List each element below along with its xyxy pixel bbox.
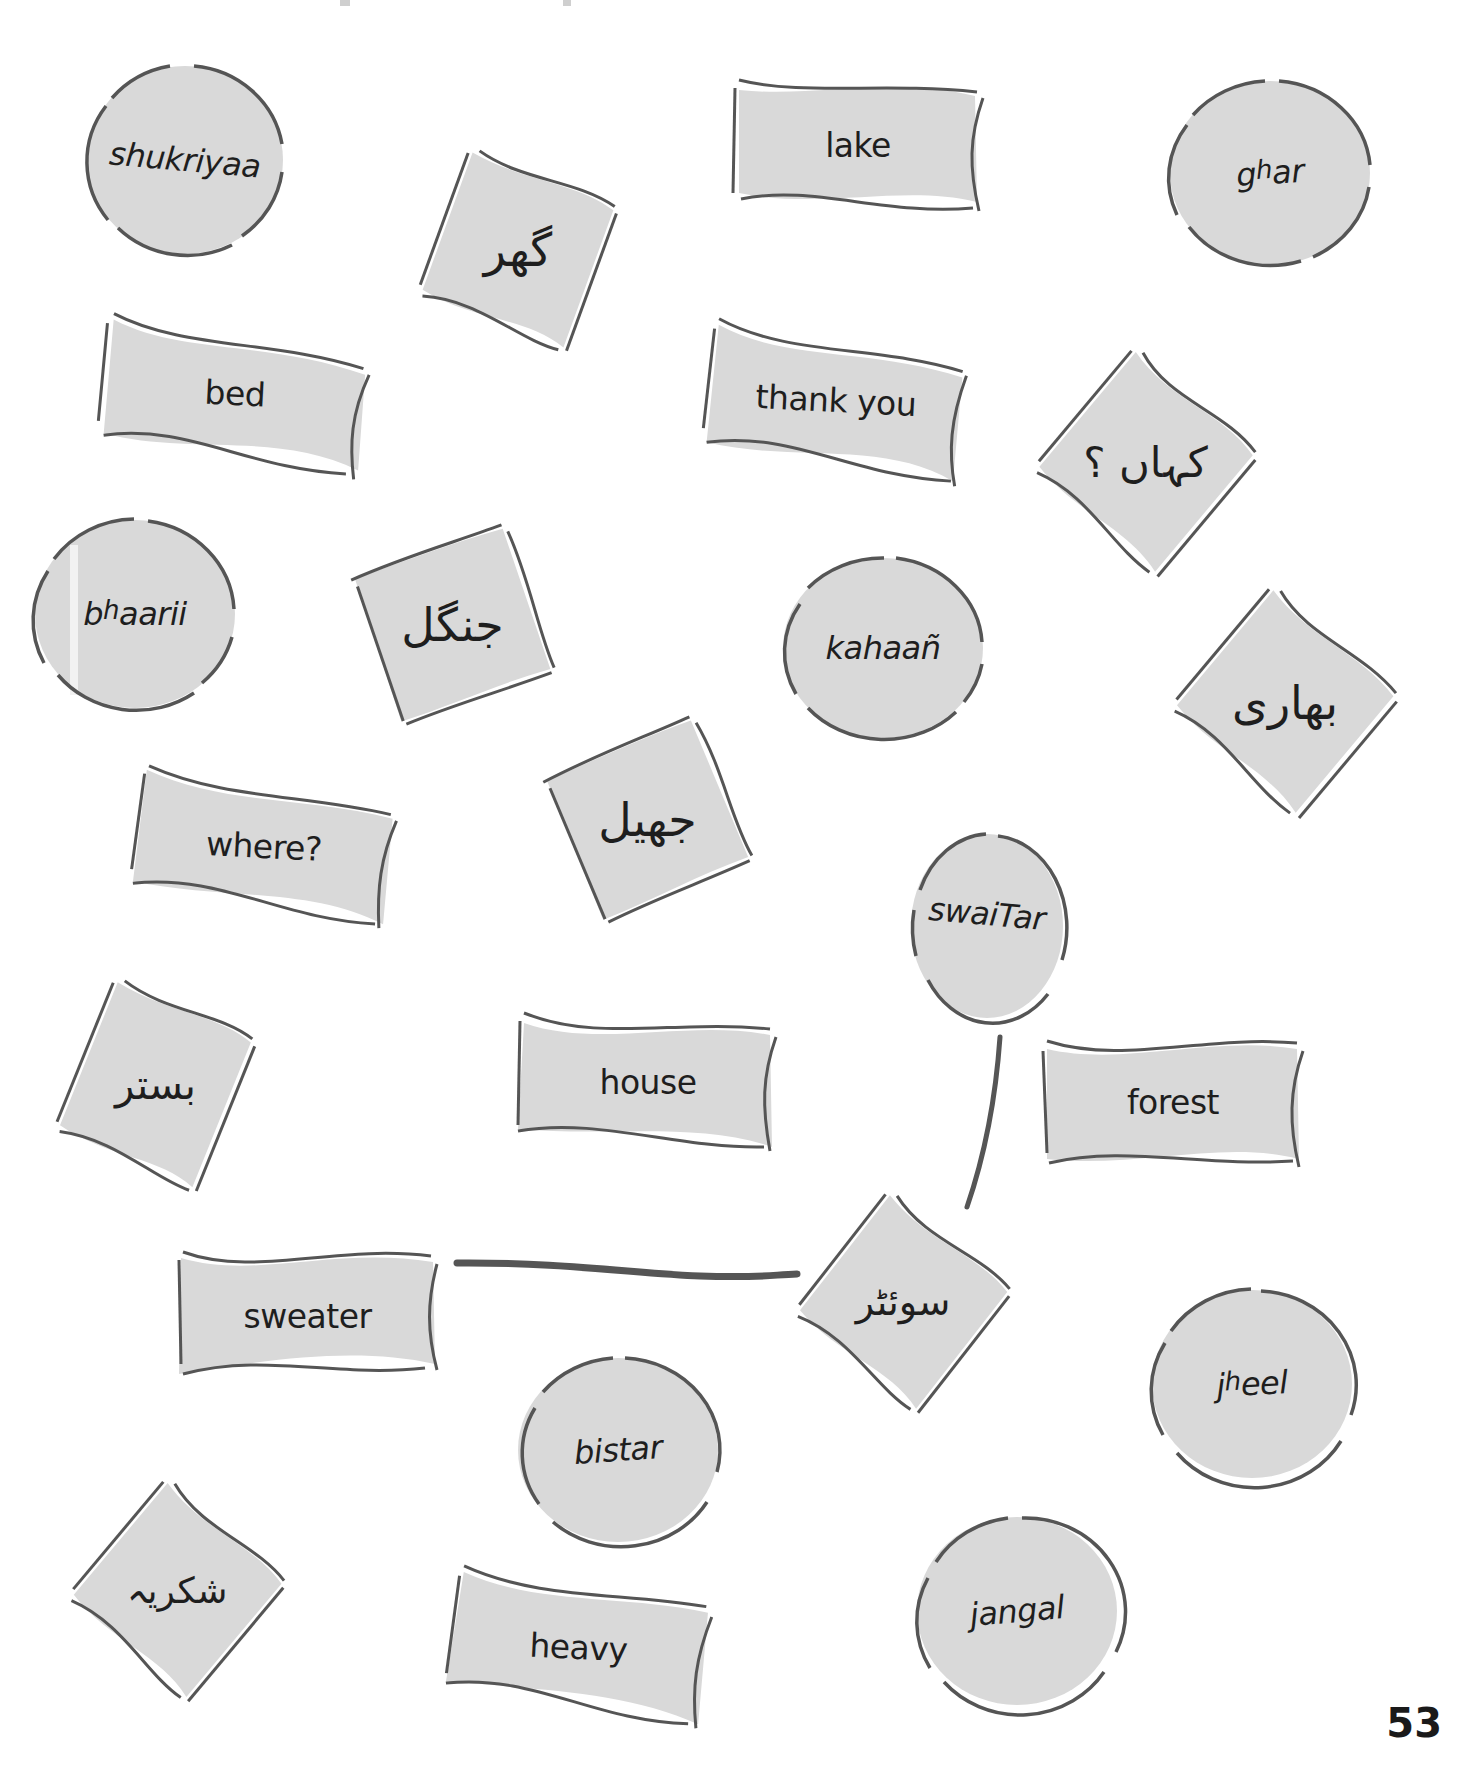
- card-label: سوئٹر: [823, 1222, 983, 1382]
- card-urdu-jheel[interactable]: جھیل: [541, 715, 754, 925]
- label-superscript: h: [1225, 1381, 1241, 1382]
- card-translit-jangal[interactable]: jangal: [912, 1512, 1122, 1710]
- card-english-heavy[interactable]: heavy: [442, 1565, 714, 1729]
- cut-off-header-fragment: [563, 0, 571, 6]
- card-label: bed: [96, 311, 373, 475]
- card-urdu-shukriyaa[interactable]: شکریہ: [64, 1477, 289, 1702]
- card-urdu-bhaarii[interactable]: بھاری: [1167, 585, 1403, 821]
- card-label: بستر: [78, 1000, 233, 1170]
- card-label: jangal: [904, 1503, 1130, 1719]
- card-english-house[interactable]: house: [518, 1013, 778, 1151]
- page-number: 53: [1386, 1700, 1442, 1746]
- card-label: bistar: [506, 1345, 729, 1554]
- card-label: ghar: [1158, 68, 1381, 277]
- connector-line-sweater-to-urdu: [457, 1263, 797, 1277]
- card-label: bhaarii: [30, 515, 240, 713]
- card-label: swaiTar: [900, 811, 1074, 1016]
- card-label: بھاری: [1200, 620, 1370, 785]
- card-translit-kahaan[interactable]: kahaañ: [778, 552, 988, 744]
- cut-off-header-fragment: [340, 0, 350, 6]
- card-urdu-swaiTar[interactable]: سوئٹر: [791, 1190, 1016, 1415]
- card-label: house: [518, 1013, 778, 1151]
- label-superscript: h: [1256, 168, 1272, 169]
- card-translit-shukriyaa[interactable]: shukriyaa: [82, 60, 288, 260]
- card-english-where[interactable]: where?: [129, 765, 398, 927]
- card-translit-bistar[interactable]: bistar: [513, 1352, 723, 1547]
- card-translit-bhaarii[interactable]: bhaarii: [30, 515, 240, 713]
- label-rest: aarii: [119, 595, 187, 633]
- card-urdu-jangal[interactable]: جنگل: [349, 523, 555, 726]
- card-translit-ghar[interactable]: ghar: [1165, 75, 1375, 270]
- card-urdu-kahaan[interactable]: کہاں ؟: [1029, 346, 1261, 578]
- card-english-forest[interactable]: forest: [1043, 1035, 1303, 1170]
- card-urdu-bistar[interactable]: بستر: [52, 977, 259, 1193]
- label-rest: ar: [1271, 151, 1305, 191]
- card-english-thank-you[interactable]: thank you: [701, 318, 970, 482]
- card-label: جنگل: [370, 545, 535, 705]
- card-label: گھر: [438, 170, 598, 330]
- card-label: heavy: [442, 1565, 714, 1729]
- card-label: kahaañ: [778, 552, 988, 744]
- connector-line-urdu-to-swaiTar: [967, 1037, 1000, 1207]
- card-translit-swaiTar[interactable]: swaiTar: [908, 830, 1066, 1022]
- card-label: jheel: [1142, 1280, 1362, 1489]
- card-urdu-ghar[interactable]: گھر: [415, 147, 620, 352]
- card-english-bed[interactable]: bed: [96, 311, 373, 475]
- card-label: sweater: [175, 1252, 440, 1380]
- card-label: lake: [733, 78, 983, 213]
- card-label: کہاں ؟: [1063, 380, 1228, 545]
- card-label: where?: [129, 765, 398, 927]
- card-label: thank you: [701, 318, 970, 482]
- card-english-sweater[interactable]: sweater: [175, 1252, 440, 1380]
- label-base: b: [83, 595, 103, 633]
- card-label: forest: [1043, 1035, 1303, 1170]
- card-translit-jheel[interactable]: jheel: [1147, 1285, 1357, 1483]
- card-english-lake[interactable]: lake: [733, 78, 983, 213]
- card-label: shukriyaa: [74, 51, 297, 268]
- label-base: g: [1235, 155, 1257, 194]
- label-rest: eel: [1240, 1363, 1289, 1403]
- card-label: شکریہ: [97, 1510, 257, 1670]
- card-label: جھیل: [565, 740, 730, 900]
